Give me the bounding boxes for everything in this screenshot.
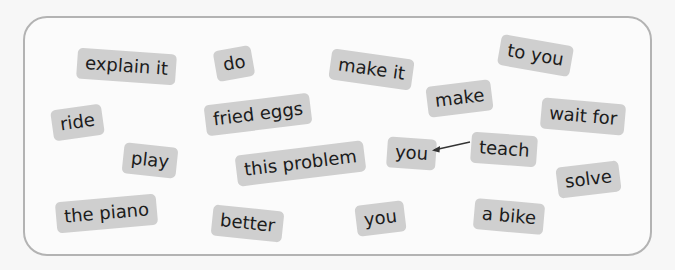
chip-do[interactable]: do (213, 45, 256, 82)
chip-a-bike[interactable]: a bike (473, 198, 545, 235)
chip-teach[interactable]: teach (470, 132, 538, 168)
chip-you-2[interactable]: you (354, 200, 406, 237)
chip-play[interactable]: play (122, 142, 179, 178)
chip-you-1[interactable]: you (386, 136, 437, 170)
